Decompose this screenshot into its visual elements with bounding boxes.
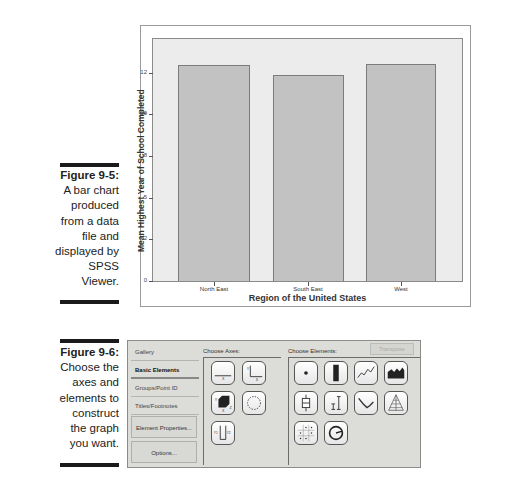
tab-groups-point-id[interactable]: Groups/Point ID <box>131 379 199 397</box>
x-axis-title: Region of the United States <box>152 293 463 303</box>
y-tick-label: 12 <box>133 69 147 75</box>
y-tick-label: 10 <box>133 110 147 116</box>
x-tick-label: North East <box>174 286 254 292</box>
svg-text:Y: Y <box>215 398 218 402</box>
dual-y-axes-icon[interactable]: Y1Y2 <box>211 421 235 445</box>
caption-line: the graph <box>20 421 119 436</box>
caption-line: Choose the <box>20 360 119 375</box>
caption-line: axes and <box>20 375 119 390</box>
error-bar-icon[interactable] <box>324 391 348 415</box>
y-tick <box>149 239 153 240</box>
choose-axes-label: Choose Axes: <box>203 348 240 354</box>
bar-south-east <box>273 75 344 281</box>
caption-rule-top <box>60 163 119 167</box>
y-tick <box>149 198 153 199</box>
x-tick-label: South East <box>268 286 348 292</box>
area-icon[interactable] <box>384 361 408 385</box>
caption-line: you want. <box>20 436 119 451</box>
pie-polar-icon[interactable] <box>324 421 348 445</box>
point-icon[interactable] <box>294 361 318 385</box>
svg-text:X: X <box>222 409 225 413</box>
2d-xy-axes-icon[interactable]: YX <box>242 361 266 385</box>
population-pyramid-icon[interactable] <box>384 391 408 415</box>
svg-text:X: X <box>256 378 259 382</box>
caption-rule-bottom <box>60 300 119 304</box>
svg-text:X: X <box>222 377 225 381</box>
caption-line: file and <box>20 229 119 244</box>
tab-basic-elements[interactable]: Basic Elements <box>131 361 199 379</box>
tab-gallery[interactable]: Gallery <box>131 343 199 361</box>
caption-line: elements to <box>20 391 119 406</box>
figure-9-6-caption: Figure 9-6: Choose the axes and elements… <box>20 345 119 451</box>
dual-line-icon[interactable] <box>354 391 378 415</box>
element-properties-button[interactable]: Element Properties... <box>131 416 197 438</box>
x-tick-label: West <box>361 286 441 292</box>
caption-rule-top <box>60 339 119 343</box>
y-tick <box>149 156 153 157</box>
svg-text:Y: Y <box>247 367 250 371</box>
transpose-button[interactable]: Transpose <box>370 343 414 355</box>
svg-text:Z: Z <box>229 406 232 410</box>
figure-label: Figure 9-5: <box>20 168 119 183</box>
caption-rule-bottom <box>60 463 119 467</box>
chart-builder-panel: Gallery Basic Elements Groups/Point ID T… <box>127 340 421 468</box>
y-tick <box>149 114 153 115</box>
scatterplot-matrix-icon[interactable] <box>294 421 318 445</box>
polar-axes-icon[interactable] <box>242 391 266 415</box>
boxplot-icon[interactable] <box>294 391 318 415</box>
bar-icon[interactable] <box>324 361 348 385</box>
line-icon[interactable] <box>354 361 378 385</box>
y-tick-label: 8 <box>133 152 147 158</box>
caption-line: SPSS <box>20 259 119 274</box>
3d-xyz-axes-icon[interactable]: YXZ <box>211 391 235 415</box>
svg-text:Y1: Y1 <box>214 431 218 435</box>
figure-9-5-caption: Figure 9-5: A bar chart produced from a … <box>20 168 119 290</box>
caption-line: produced <box>20 198 119 213</box>
y-tick-label: 5 <box>133 194 147 200</box>
y-tick <box>149 281 153 282</box>
y-tick-label: 0 <box>133 277 147 283</box>
y-tick-label: 2 <box>133 235 147 241</box>
caption-line: from a data <box>20 214 119 229</box>
caption-line: Viewer. <box>20 274 119 289</box>
bar-west <box>366 64 436 281</box>
bar-north-east <box>178 65 250 281</box>
caption-line: construct <box>20 406 119 421</box>
caption-line: A bar chart <box>20 183 119 198</box>
caption-line: displayed by <box>20 244 119 259</box>
choose-elements-label: Choose Elements: <box>288 348 337 354</box>
y-tick <box>149 73 153 74</box>
1d-x-axis-icon[interactable]: X <box>211 361 235 385</box>
options-button[interactable]: Options... <box>131 441 197 463</box>
tab-titles-footnotes[interactable]: Titles/Footnotes <box>131 397 199 415</box>
figure-label: Figure 9-6: <box>20 345 119 360</box>
svg-text:Y2: Y2 <box>227 431 231 435</box>
